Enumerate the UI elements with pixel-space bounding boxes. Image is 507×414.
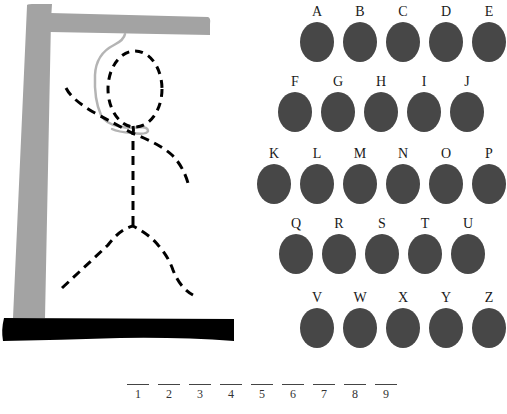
letter-circle-icon[interactable]: [408, 234, 442, 274]
letter-circle-icon[interactable]: [451, 234, 485, 274]
slot-underline: [313, 384, 335, 385]
figure-legs: [62, 226, 193, 295]
letter-label: R: [321, 216, 357, 232]
letter-circle-icon[interactable]: [322, 234, 356, 274]
letter-button-l[interactable]: L: [299, 146, 335, 204]
letter-circle-icon[interactable]: [300, 308, 334, 348]
letter-button-r[interactable]: R: [321, 216, 357, 274]
letter-button-d[interactable]: D: [428, 4, 464, 62]
letter-label: B: [342, 4, 378, 20]
letter-circle-icon[interactable]: [343, 308, 377, 348]
letter-circle-icon[interactable]: [407, 92, 441, 132]
letter-label: K: [256, 146, 292, 162]
letter-label: Y: [428, 290, 464, 306]
letter-circle-icon[interactable]: [472, 164, 506, 204]
letter-button-y[interactable]: Y: [428, 290, 464, 348]
word-slot-1: 1: [127, 384, 149, 401]
letter-button-q[interactable]: Q: [278, 216, 314, 274]
letter-circle-icon[interactable]: [343, 22, 377, 62]
letter-button-f[interactable]: F: [277, 74, 313, 132]
letter-button-a[interactable]: A: [299, 4, 335, 62]
slot-underline: [251, 384, 273, 385]
gallows-pole: [13, 4, 52, 318]
letter-circle-icon[interactable]: [450, 92, 484, 132]
letter-button-h[interactable]: H: [363, 74, 399, 132]
letter-button-k[interactable]: K: [256, 146, 292, 204]
letter-label: F: [277, 74, 313, 90]
figure-body: [133, 126, 134, 226]
letter-label: Z: [471, 290, 507, 306]
letter-button-e[interactable]: E: [471, 4, 507, 62]
word-slot-6: 6: [282, 384, 304, 401]
letter-button-c[interactable]: C: [385, 4, 421, 62]
letter-button-s[interactable]: S: [364, 216, 400, 274]
letter-label: W: [342, 290, 378, 306]
letter-circle-icon[interactable]: [300, 164, 334, 204]
letter-label: E: [471, 4, 507, 20]
letter-circle-icon[interactable]: [429, 308, 463, 348]
letter-label: T: [407, 216, 443, 232]
letter-button-u[interactable]: U: [450, 216, 486, 274]
letter-circle-icon[interactable]: [386, 164, 420, 204]
word-slot-3: 3: [189, 384, 211, 401]
letter-label: C: [385, 4, 421, 20]
figure-arms: [66, 88, 188, 183]
letter-label: Q: [278, 216, 314, 232]
slot-underline: [127, 384, 149, 385]
letter-button-b[interactable]: B: [342, 4, 378, 62]
slot-underline: [282, 384, 304, 385]
letter-circle-icon[interactable]: [472, 308, 506, 348]
letter-button-j[interactable]: J: [449, 74, 485, 132]
letter-button-w[interactable]: W: [342, 290, 378, 348]
letter-circle-icon[interactable]: [278, 92, 312, 132]
slot-underline: [220, 384, 242, 385]
letter-button-g[interactable]: G: [320, 74, 356, 132]
letter-circle-icon[interactable]: [257, 164, 291, 204]
letter-circle-icon[interactable]: [472, 22, 506, 62]
gallows-base: [2, 318, 234, 341]
letter-label: G: [320, 74, 356, 90]
letter-label: H: [363, 74, 399, 90]
letter-circle-icon[interactable]: [279, 234, 313, 274]
slot-number: 8: [344, 388, 366, 401]
letter-button-z[interactable]: Z: [471, 290, 507, 348]
letter-circle-icon[interactable]: [429, 22, 463, 62]
letter-label: P: [471, 146, 507, 162]
slot-number: 1: [127, 388, 149, 401]
letter-button-v[interactable]: V: [299, 290, 335, 348]
slot-number: 3: [189, 388, 211, 401]
letter-label: J: [449, 74, 485, 90]
letter-button-t[interactable]: T: [407, 216, 443, 274]
word-slot-2: 2: [158, 384, 180, 401]
letter-label: V: [299, 290, 335, 306]
slot-number: 6: [282, 388, 304, 401]
letter-circle-icon[interactable]: [343, 164, 377, 204]
letter-button-p[interactable]: P: [471, 146, 507, 204]
slot-number: 2: [158, 388, 180, 401]
figure-head: [108, 51, 162, 127]
letter-circle-icon[interactable]: [365, 234, 399, 274]
letter-circle-icon[interactable]: [364, 92, 398, 132]
slot-number: 5: [251, 388, 273, 401]
letter-button-o[interactable]: O: [428, 146, 464, 204]
gallows-beam: [50, 13, 210, 35]
letter-label: N: [385, 146, 421, 162]
letter-button-n[interactable]: N: [385, 146, 421, 204]
letter-label: U: [450, 216, 486, 232]
letter-label: A: [299, 4, 335, 20]
slot-number: 7: [313, 388, 335, 401]
letter-button-i[interactable]: I: [406, 74, 442, 132]
letter-button-m[interactable]: M: [342, 146, 378, 204]
letter-label: X: [385, 290, 421, 306]
letter-circle-icon[interactable]: [386, 308, 420, 348]
letter-circle-icon[interactable]: [321, 92, 355, 132]
letter-circle-icon[interactable]: [300, 22, 334, 62]
slot-underline: [344, 384, 366, 385]
letter-circle-icon[interactable]: [429, 164, 463, 204]
letter-label: L: [299, 146, 335, 162]
slot-underline: [375, 384, 397, 385]
gallows-drawing: [0, 0, 260, 350]
letter-circle-icon[interactable]: [386, 22, 420, 62]
word-slot-7: 7: [313, 384, 335, 401]
letter-button-x[interactable]: X: [385, 290, 421, 348]
